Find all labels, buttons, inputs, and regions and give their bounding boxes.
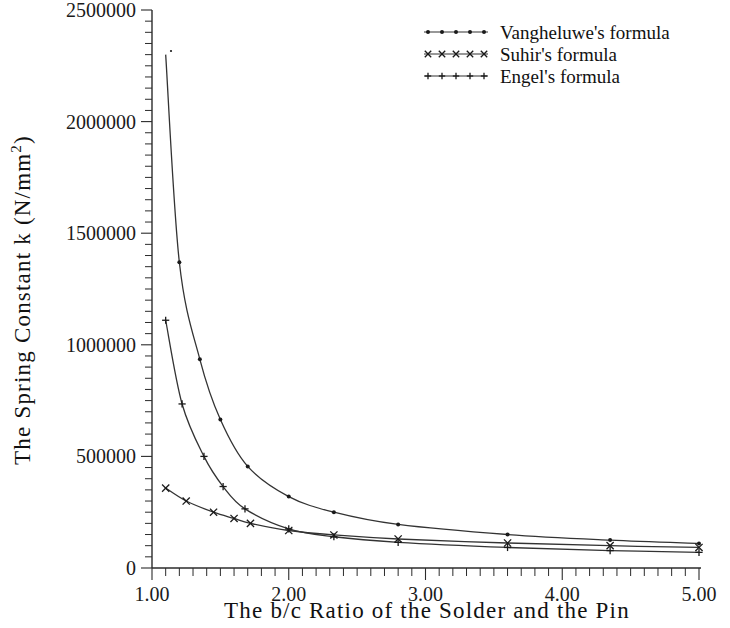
series-line bbox=[166, 488, 699, 547]
data-point-marker bbox=[608, 538, 612, 542]
data-point-marker bbox=[425, 73, 431, 79]
data-point-marker bbox=[439, 73, 445, 79]
data-point-marker bbox=[332, 510, 336, 514]
data-point-marker bbox=[183, 497, 190, 504]
chart-series bbox=[166, 55, 701, 546]
chart-figure: 05000001000000150000020000002500000 1.00… bbox=[0, 0, 730, 628]
chart-legend: Vangheluwe's formulaSuhir's formulaEngel… bbox=[424, 22, 670, 87]
chart-canvas: 05000001000000150000020000002500000 1.00… bbox=[0, 0, 730, 628]
data-point-marker bbox=[218, 418, 222, 422]
data-point-marker bbox=[426, 30, 430, 34]
legend-label: Engel's formula bbox=[500, 66, 621, 87]
legend-item: Engel's formula bbox=[424, 66, 621, 87]
data-point-marker bbox=[440, 30, 444, 34]
x-axis-tick-label: 1.00 bbox=[135, 583, 170, 605]
series-line bbox=[166, 320, 699, 552]
legend-item: Vangheluwe's formula bbox=[424, 22, 670, 43]
y-axis-tick-label: 1500000 bbox=[66, 222, 136, 244]
legend-label: Suhir's formula bbox=[500, 44, 617, 65]
data-point-marker bbox=[162, 484, 169, 491]
data-point-marker bbox=[178, 400, 185, 407]
y-axis-tick-labels: 05000001000000150000020000002500000 bbox=[66, 0, 136, 579]
data-point-marker bbox=[506, 533, 510, 537]
y-axis-tick-label: 1000000 bbox=[66, 334, 136, 356]
data-point-marker bbox=[287, 495, 291, 499]
x-axis-title: The b/c Ratio of the Solder and the Pin bbox=[224, 598, 630, 623]
legend-item: Suhir's formula bbox=[424, 44, 617, 65]
y-axis-title: The Spring Constant k (N/mm2) bbox=[8, 135, 35, 465]
data-point-marker bbox=[198, 357, 202, 361]
data-point-marker bbox=[467, 73, 473, 79]
data-point-marker bbox=[246, 464, 250, 468]
series-line bbox=[166, 55, 699, 544]
data-point-marker bbox=[210, 509, 217, 516]
data-point-marker bbox=[170, 50, 172, 52]
legend-label: Vangheluwe's formula bbox=[500, 22, 670, 43]
data-point-marker bbox=[453, 73, 459, 79]
data-point-marker bbox=[481, 73, 487, 79]
y-axis-tick-label: 500000 bbox=[76, 445, 136, 467]
x-axis-tick-label: 5.00 bbox=[682, 583, 717, 605]
y-axis-minor-ticks bbox=[145, 21, 152, 557]
y-axis-tick-label: 2000000 bbox=[66, 111, 136, 133]
y-axis-tick-label: 0 bbox=[126, 557, 136, 579]
data-point-marker bbox=[162, 317, 169, 324]
chart-series-group bbox=[162, 50, 703, 556]
data-point-marker bbox=[200, 453, 207, 460]
y-axis-title-group: The Spring Constant k (N/mm2) bbox=[8, 135, 35, 465]
chart-series bbox=[162, 317, 703, 556]
data-point-marker bbox=[395, 539, 402, 546]
data-point-marker bbox=[177, 260, 181, 264]
data-point-marker bbox=[230, 515, 237, 522]
data-point-marker bbox=[468, 30, 472, 34]
y-axis-tick-label: 2500000 bbox=[66, 0, 136, 21]
data-point-marker bbox=[396, 522, 400, 526]
data-point-marker bbox=[697, 541, 701, 545]
data-point-marker bbox=[482, 30, 486, 34]
data-point-marker bbox=[454, 30, 458, 34]
